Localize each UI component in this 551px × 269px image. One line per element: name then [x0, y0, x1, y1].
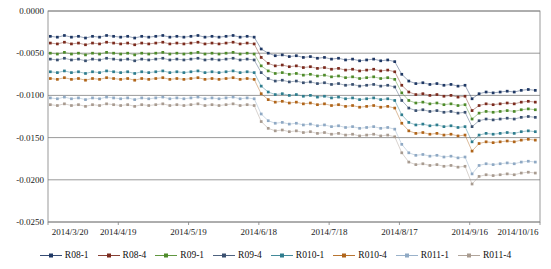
data-point-marker [365, 126, 368, 129]
data-point-marker [267, 52, 270, 55]
data-point-marker [288, 55, 291, 58]
data-point-marker [414, 163, 417, 166]
data-point-marker [400, 92, 403, 95]
legend-item-r09-1[interactable]: R09-1 [155, 250, 204, 260]
data-point-marker [534, 172, 537, 175]
data-point-marker [393, 78, 396, 81]
data-point-marker [218, 43, 221, 46]
legend-item-r011-4[interactable]: R011-4 [458, 250, 511, 260]
data-point-marker [436, 124, 439, 127]
data-point-marker [422, 162, 425, 165]
data-point-marker [161, 76, 164, 79]
data-point-marker [190, 35, 193, 38]
data-point-marker [183, 59, 186, 62]
data-point-marker [63, 34, 66, 37]
data-point-marker [176, 35, 179, 38]
data-point-marker [372, 83, 375, 86]
data-point-marker [70, 104, 73, 107]
data-point-marker [457, 104, 460, 107]
legend-item-r08-1[interactable]: R08-1 [40, 250, 89, 260]
data-point-marker [246, 77, 249, 80]
data-point-marker [91, 97, 94, 100]
data-point-marker [98, 78, 101, 81]
data-point-marker [204, 97, 207, 100]
data-point-marker [98, 59, 101, 62]
data-point-marker [126, 103, 129, 106]
data-point-marker [429, 155, 432, 158]
legend-item-r010-4[interactable]: R010-4 [333, 250, 387, 260]
data-point-marker [478, 134, 481, 137]
legend-item-r011-1[interactable]: R011-1 [396, 250, 449, 260]
data-point-marker [253, 43, 256, 46]
data-point-marker [372, 58, 375, 61]
data-point-marker [464, 111, 467, 114]
data-point-marker [140, 77, 143, 80]
data-point-marker [63, 76, 66, 79]
data-point-marker [140, 70, 143, 73]
data-point-marker [492, 92, 495, 95]
data-point-marker [112, 103, 115, 106]
data-point-marker [316, 124, 319, 127]
data-point-marker [246, 70, 249, 73]
data-point-marker [288, 102, 291, 105]
data-point-marker [267, 91, 270, 94]
data-point-marker [302, 74, 305, 77]
data-point-marker [436, 163, 439, 166]
data-point-marker [246, 97, 249, 100]
data-point-marker [351, 104, 354, 107]
data-point-marker [302, 131, 305, 134]
data-point-marker [478, 92, 481, 95]
data-point-marker [527, 88, 530, 91]
data-point-marker [112, 77, 115, 80]
data-point-marker [112, 97, 115, 100]
data-point-marker [534, 101, 537, 104]
data-point-marker [372, 125, 375, 128]
data-point-marker [77, 97, 80, 100]
data-point-marker [309, 130, 312, 133]
data-point-marker [450, 133, 453, 136]
data-point-marker [119, 97, 122, 100]
data-point-marker [119, 36, 122, 39]
data-point-marker [70, 53, 73, 56]
data-point-marker [407, 130, 410, 133]
data-point-marker [91, 70, 94, 73]
legend-item-r08-4[interactable]: R08-4 [98, 250, 147, 260]
legend-swatch-r010-4 [333, 251, 355, 260]
data-point-marker [183, 97, 186, 100]
data-point-marker [457, 112, 460, 115]
data-point-marker [183, 36, 186, 39]
data-point-marker [386, 105, 389, 108]
data-point-marker [316, 75, 319, 78]
data-point-marker [457, 126, 460, 129]
data-point-marker [77, 58, 80, 61]
data-point-marker [91, 42, 94, 45]
data-point-marker [176, 52, 179, 55]
data-point-marker [253, 104, 256, 107]
data-point-marker [91, 35, 94, 38]
data-point-marker [119, 104, 122, 107]
data-point-marker [414, 93, 417, 96]
data-point-marker [365, 59, 368, 62]
data-point-marker [443, 103, 446, 106]
data-point-marker [77, 42, 80, 45]
data-point-marker [429, 102, 432, 105]
data-point-marker [288, 81, 291, 84]
legend-item-r09-4[interactable]: R09-4 [213, 250, 262, 260]
data-point-marker [337, 96, 340, 99]
data-point-marker [190, 97, 193, 100]
data-point-marker [534, 89, 537, 92]
data-point-marker [246, 103, 249, 106]
data-point-marker [422, 92, 425, 95]
data-point-marker [154, 58, 157, 61]
data-point-marker [393, 86, 396, 89]
data-point-marker [513, 91, 516, 94]
data-point-marker [513, 140, 516, 143]
legend-item-r010-1[interactable]: R010-1 [271, 250, 325, 260]
data-point-marker [386, 76, 389, 79]
data-point-marker [358, 127, 361, 130]
data-point-marker [211, 58, 214, 61]
data-point-marker [485, 162, 488, 165]
data-point-marker [464, 84, 467, 87]
data-point-marker [337, 75, 340, 78]
data-point-marker [218, 97, 221, 100]
